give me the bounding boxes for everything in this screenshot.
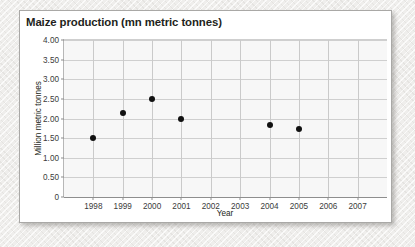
y-tick-label: 2.00	[43, 114, 59, 123]
y-tick-label: 3.50	[43, 55, 59, 64]
y-tick-label: 4.00	[43, 36, 59, 45]
x-gridline	[240, 40, 241, 197]
x-gridline	[328, 40, 329, 197]
y-tick-mark	[61, 157, 64, 158]
y-tick-label: 3.00	[43, 75, 59, 84]
plot-area: 00.501.001.502.002.503.003.504.001998199…	[63, 39, 387, 197]
y-gridline	[64, 99, 387, 100]
y-gridline	[64, 158, 387, 159]
y-tick-label: 1.00	[43, 153, 59, 162]
data-point	[120, 110, 126, 116]
x-gridline	[358, 40, 359, 197]
x-tick-mark	[298, 197, 299, 200]
x-tick-mark	[328, 197, 329, 200]
data-point	[90, 135, 96, 141]
y-gridline	[64, 40, 387, 41]
x-tick-mark	[240, 197, 241, 200]
y-tick-mark	[61, 138, 64, 139]
y-tick-label: 1.50	[43, 134, 59, 143]
x-tick-mark	[210, 197, 211, 200]
y-tick-label: 2.50	[43, 94, 59, 103]
y-tick-mark	[61, 177, 64, 178]
x-gridline	[299, 40, 300, 197]
x-axis-title: Year	[63, 209, 387, 218]
x-tick-mark	[93, 197, 94, 200]
y-tick-mark	[61, 59, 64, 60]
chart-title: Maize production (mn metric tonnes)	[26, 16, 222, 28]
x-tick-mark	[122, 197, 123, 200]
y-gridline	[64, 119, 387, 120]
y-gridline	[64, 60, 387, 61]
data-point	[178, 116, 184, 122]
y-axis-title-label: Million metric tonnes	[34, 81, 43, 156]
y-gridline	[64, 79, 387, 80]
data-point	[267, 122, 273, 128]
x-gridline	[152, 40, 153, 197]
chart-card: Maize production (mn metric tonnes) Mill…	[19, 10, 392, 223]
x-gridline	[93, 40, 94, 197]
y-tick-mark	[61, 79, 64, 80]
screenshot-root: Maize production (mn metric tonnes) Mill…	[0, 0, 415, 247]
data-point	[149, 96, 155, 102]
y-gridline	[64, 177, 387, 178]
y-tick-label: 0	[54, 193, 59, 202]
x-gridline	[211, 40, 212, 197]
y-tick-mark	[61, 40, 64, 41]
y-tick-mark	[61, 98, 64, 99]
data-point	[296, 126, 302, 132]
x-tick-mark	[181, 197, 182, 200]
x-tick-mark	[152, 197, 153, 200]
y-tick-mark	[61, 197, 64, 198]
x-tick-mark	[357, 197, 358, 200]
x-gridline	[270, 40, 271, 197]
y-tick-mark	[61, 118, 64, 119]
y-gridline	[64, 138, 387, 139]
x-tick-mark	[269, 197, 270, 200]
y-tick-label: 0.50	[43, 173, 59, 182]
y-gridline	[64, 197, 387, 198]
x-gridline	[123, 40, 124, 197]
